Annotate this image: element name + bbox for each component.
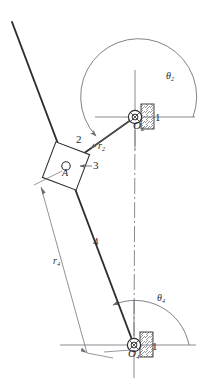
r4-dimension-line [41,187,87,353]
kinematic-diagram-figure: O2 A O4 1 2 3 4 1 r2 r4 θ2 θ4 [0,0,206,382]
link-label-ground-lower: 1 [152,341,158,352]
joint-label-O4: O4 [128,348,139,361]
link-label-ground-upper: 1 [155,112,161,123]
link-label-4: 4 [93,236,99,247]
angle-label-theta4: θ4 [157,293,165,304]
joint-label-O2: O2 [133,120,144,133]
r4-arrowhead-top [41,187,46,195]
angle-label-theta2: θ2 [166,71,174,82]
link-label-3: 3 [93,160,99,171]
vector-label-r2: r2 [98,141,105,152]
joint-label-A: A [62,168,68,178]
r4-tail-line [87,353,113,358]
vector-label-r4: r4 [53,256,60,267]
link-label-2: 2 [76,134,82,145]
mechanism-drawing [0,0,206,382]
r4-extension-line-bottom [104,350,131,352]
